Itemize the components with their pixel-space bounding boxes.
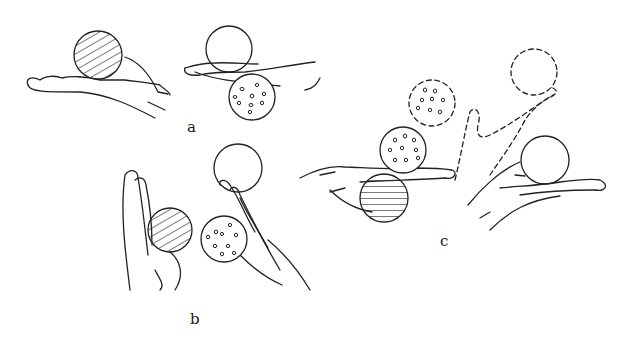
illustration [0, 0, 627, 339]
panel-label-b: b [190, 310, 200, 328]
panel-a-right-hand [185, 26, 320, 120]
panel-b-left-hand [123, 171, 192, 290]
panel-label-c: c [440, 232, 448, 250]
panel-label-a: a [187, 118, 196, 136]
panel-c-right-hand [468, 136, 605, 230]
panel-a-left-hand [27, 31, 170, 118]
panel-b-right-hand [201, 144, 310, 290]
figure: a b c [0, 0, 627, 339]
panel-c-left-hand [300, 127, 455, 222]
